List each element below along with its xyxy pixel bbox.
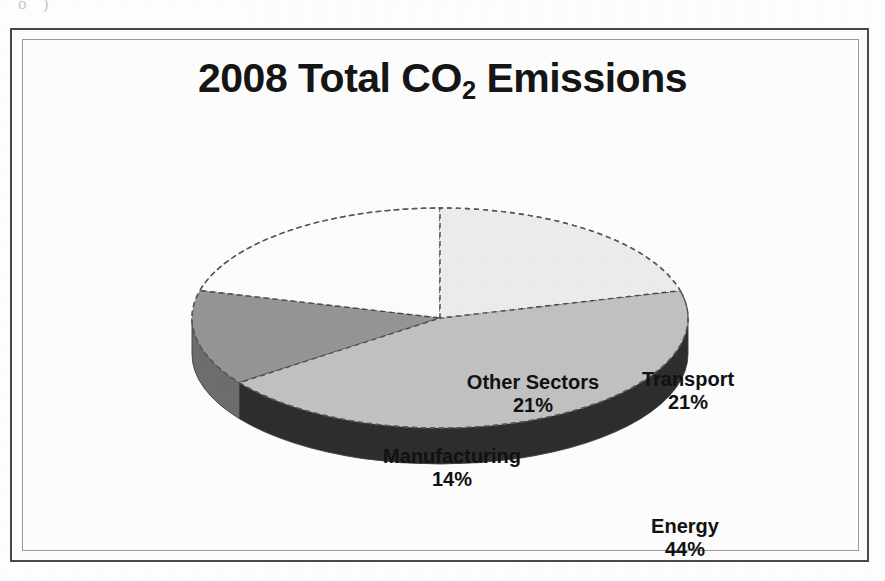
scan-artifact-text: o ) bbox=[18, 0, 198, 16]
chart-title-main: 2008 Total CO bbox=[198, 55, 462, 101]
chart-title-tail: Emissions bbox=[476, 55, 687, 101]
pie-top-face bbox=[192, 208, 688, 428]
figure-page: o ) 2008 Total CO2 Emissions bbox=[0, 0, 885, 581]
pie-chart: Other Sectors 21% Transport 21% Manufact… bbox=[180, 168, 700, 513]
pie-chart-svg bbox=[180, 168, 700, 513]
chart-title: 2008 Total CO2 Emissions bbox=[0, 55, 885, 105]
chart-title-subscript: 2 bbox=[462, 76, 476, 104]
